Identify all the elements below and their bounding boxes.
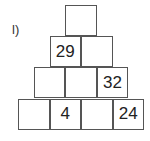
exercise-label: l) bbox=[12, 22, 19, 37]
pyramid-cell[interactable] bbox=[34, 67, 66, 98]
pyramid-cell[interactable]: 29 bbox=[50, 36, 82, 67]
pyramid-cell[interactable] bbox=[81, 36, 113, 67]
pyramid-cell[interactable]: 24 bbox=[113, 99, 145, 130]
pyramid-cell[interactable] bbox=[18, 99, 50, 130]
pyramid-cell[interactable] bbox=[81, 99, 113, 130]
pyramid-cell[interactable] bbox=[65, 67, 97, 98]
pyramid-cell[interactable] bbox=[65, 5, 97, 36]
pyramid-cell[interactable]: 4 bbox=[50, 99, 82, 130]
pyramid-cell[interactable]: 32 bbox=[97, 67, 129, 98]
